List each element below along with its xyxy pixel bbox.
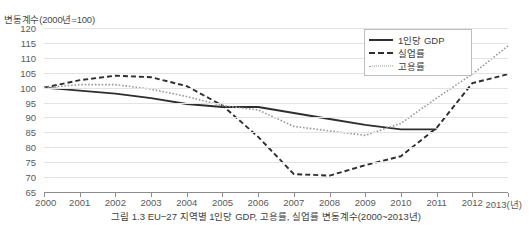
y-axis-tick-labels: 65707580859095100105110115120 [0,28,40,192]
y-tick-label: 115 [6,37,36,48]
x-tick-label: 2008 [319,197,340,208]
grid-line [44,117,508,118]
x-tick-label: 2006 [248,197,269,208]
y-tick-label: 80 [6,142,36,153]
x-tick-label: 2000 [35,197,56,208]
y-tick-label: 90 [6,112,36,123]
y-tick-label: 110 [6,52,36,63]
y-tick-label: 100 [6,82,36,93]
y-tick-label: 120 [6,23,36,34]
x-tick-label: 2005 [212,197,233,208]
chart-legend: 1인당 GDP 실업률 고용률 [364,29,472,76]
grid-line [44,88,508,89]
x-tick-label: 2011 [426,197,446,208]
x-tick-label: 2009 [355,197,376,208]
x-tick-label: 2001 [69,197,90,208]
legend-swatch-dashed-icon [369,48,393,58]
series-line-solid [44,88,437,130]
legend-swatch-solid-icon [369,35,393,45]
grid-line [44,177,508,178]
y-tick-label: 105 [6,67,36,78]
y-tick-label: 70 [6,172,36,183]
x-tick-label: 2004 [176,197,197,208]
y-tick-label: 95 [6,97,36,108]
y-tick-label: 75 [6,157,36,168]
grid-line [44,103,508,104]
legend-swatch-dotted-icon [369,61,393,71]
figure-caption: 그림 1.3 EU−27 지역별 1인당 GDP, 고용률, 실업률 변동계수(… [0,209,532,223]
grid-line [44,132,508,133]
legend-label-unemployment: 실업률 [398,46,425,60]
legend-item-unemployment: 실업률 [369,46,466,59]
legend-label-gdp: 1인당 GDP [398,33,445,47]
x-tick-label: 2003 [140,197,161,208]
legend-label-employment: 고용률 [398,59,425,73]
x-tick-label: 2012 [462,197,483,208]
x-tick-label: 2010 [390,197,411,208]
grid-line [44,147,508,148]
x-tick-label: 2002 [105,197,126,208]
y-tick-label: 85 [6,127,36,138]
figure-container: 변동계수(2000년=100) 657075808590951001051101… [0,0,532,229]
legend-item-gdp: 1인당 GDP [369,33,466,46]
x-tick-label: 2007 [283,197,304,208]
series-line-dashed [44,74,508,175]
legend-item-employment: 고용률 [369,59,466,72]
y-tick-label: 65 [6,187,36,198]
grid-line [44,162,508,163]
